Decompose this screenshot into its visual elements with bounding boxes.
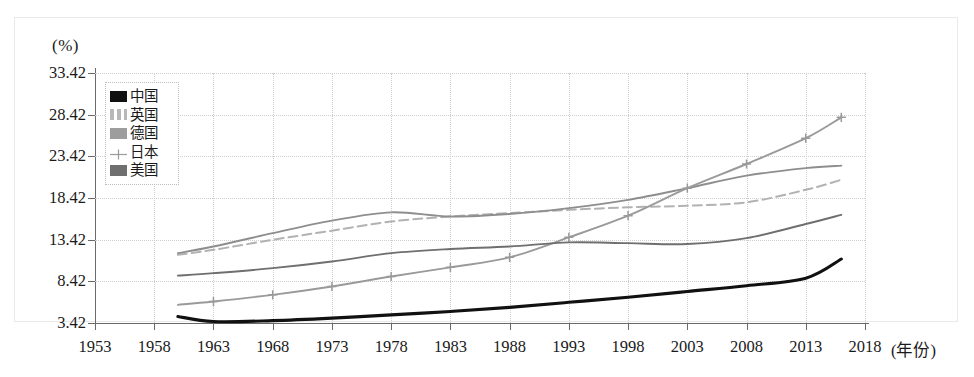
y-tick	[88, 281, 95, 282]
x-tick	[687, 323, 688, 330]
y-tick-label: 13.42	[49, 230, 86, 250]
x-tick-label: 1973	[315, 337, 348, 357]
x-tick	[569, 323, 570, 330]
data-point-marker	[268, 290, 277, 299]
legend-item-china[interactable]: 中国	[110, 87, 173, 106]
y-tick-label: 8.42	[57, 271, 86, 291]
x-tick	[213, 323, 214, 330]
x-tick	[332, 323, 333, 330]
x-tick	[391, 323, 392, 330]
y-tick-label: 28.42	[49, 105, 86, 125]
series-line-uk	[178, 180, 841, 255]
data-point-marker	[327, 282, 336, 291]
legend-label-japan: 日本	[130, 145, 158, 160]
series-usa	[178, 215, 841, 276]
x-tick-label: 2003	[671, 337, 704, 357]
y-tick	[88, 73, 95, 74]
series-line-usa	[178, 215, 841, 276]
data-point-marker	[387, 272, 396, 281]
x-tick-label: 1993	[552, 337, 585, 357]
x-tick	[510, 323, 511, 330]
x-tick	[747, 323, 748, 330]
series-uk	[178, 180, 841, 255]
y-axis-unit-label: (%)	[52, 36, 79, 56]
data-point-marker	[505, 253, 514, 262]
y-tick	[88, 115, 95, 116]
y-tick	[88, 198, 95, 199]
x-tick	[450, 323, 451, 330]
data-point-marker	[564, 233, 573, 242]
legend-label-usa: 美国	[130, 163, 158, 178]
legend-item-germany[interactable]: 德国	[110, 124, 173, 143]
chart-legend: 中国 英国 德国 日本 美国	[105, 82, 179, 185]
data-point-marker	[623, 211, 632, 220]
data-point-marker	[837, 113, 846, 122]
gridline-vertical	[865, 73, 866, 323]
uk-key-icon	[110, 106, 127, 123]
x-tick	[865, 323, 866, 330]
y-tick-label: 33.42	[49, 63, 86, 83]
x-tick-label: 1963	[197, 337, 230, 357]
y-tick-label: 18.42	[49, 188, 86, 208]
data-point-marker	[209, 297, 218, 306]
series-japan	[178, 113, 846, 306]
y-tick	[88, 240, 95, 241]
series-line-japan	[178, 117, 841, 305]
x-tick-label: 1983	[434, 337, 467, 357]
legend-label-germany: 德国	[130, 126, 158, 141]
x-tick-label: 1953	[79, 337, 112, 357]
x-tick	[273, 323, 274, 330]
data-point-marker	[446, 263, 455, 272]
x-tick-label: 1998	[612, 337, 645, 357]
x-tick	[628, 323, 629, 330]
y-tick	[88, 323, 95, 324]
y-tick-label: 23.42	[49, 146, 86, 166]
x-tick-label: 1978	[375, 337, 408, 357]
japan-key-icon	[110, 146, 127, 157]
x-axis-line	[93, 323, 869, 324]
legend-item-uk[interactable]: 英国	[110, 106, 173, 125]
y-tick-label: 3.42	[57, 313, 86, 333]
germany-key-icon	[110, 128, 127, 139]
x-tick-label: 1958	[138, 337, 171, 357]
legend-label-china: 中国	[130, 89, 158, 104]
chart-figure: (%) 3.428.4213.4218.4223.4228.4233.42 19…	[0, 0, 974, 377]
x-tick-label: 1968	[256, 337, 289, 357]
x-tick-label: 2008	[730, 337, 763, 357]
china-key-icon	[110, 91, 127, 102]
x-tick	[154, 323, 155, 330]
x-axis-title: (年份)	[891, 337, 936, 361]
legend-item-japan[interactable]: 日本	[110, 143, 173, 162]
x-tick-label: 2018	[849, 337, 882, 357]
x-tick-label: 1988	[493, 337, 526, 357]
x-tick	[806, 323, 807, 330]
usa-key-icon	[110, 165, 127, 176]
legend-item-usa[interactable]: 美国	[110, 161, 173, 180]
y-tick	[88, 156, 95, 157]
x-tick	[95, 323, 96, 330]
x-tick-label: 2013	[789, 337, 822, 357]
plot-area: 3.428.4213.4218.4223.4228.4233.42 195319…	[95, 73, 865, 323]
data-point-marker	[801, 134, 810, 143]
data-point-marker	[742, 159, 751, 168]
series-layer	[95, 73, 865, 323]
legend-label-uk: 英国	[130, 108, 158, 123]
data-point-marker	[683, 184, 692, 193]
